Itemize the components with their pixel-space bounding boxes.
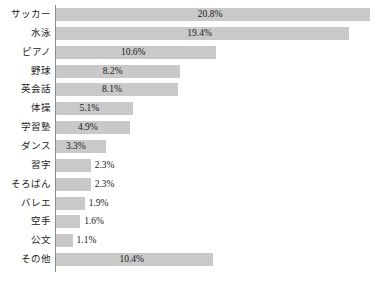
bar-row: ピアノ10.6% — [0, 46, 380, 59]
category-label: ダンス — [0, 140, 51, 153]
value-label: 8.1% — [102, 83, 122, 96]
category-label: 空手 — [0, 215, 51, 228]
value-label: 2.3% — [95, 178, 115, 191]
value-label: 5.1% — [79, 102, 99, 115]
bar — [56, 197, 85, 210]
category-label: 英会話 — [0, 83, 51, 96]
bar-row: 空手1.6% — [0, 215, 380, 228]
bar-row: サッカー20.8% — [0, 8, 380, 21]
value-label: 1.1% — [77, 234, 97, 247]
category-label: サッカー — [0, 8, 51, 21]
bar-row: そろばん2.3% — [0, 178, 380, 191]
value-label: 10.6% — [121, 46, 146, 59]
category-label: 公文 — [0, 234, 51, 247]
value-label: 4.9% — [78, 121, 98, 134]
bar-row: 学習塾4.9% — [0, 121, 380, 134]
category-label: ピアノ — [0, 46, 51, 59]
bar-row: 水泳19.4% — [0, 27, 380, 40]
horizontal-bar-chart: サッカー20.8%水泳19.4%ピアノ10.6%野球8.2%英会話8.1%体操5… — [0, 0, 380, 285]
bar-row: 公文1.1% — [0, 234, 380, 247]
bar-row: 習字2.3% — [0, 159, 380, 172]
category-label: そろばん — [0, 178, 51, 191]
bar-row: 体操5.1% — [0, 102, 380, 115]
category-label: 水泳 — [0, 27, 51, 40]
category-label: 習字 — [0, 159, 51, 172]
value-label: 10.4% — [119, 253, 144, 266]
category-label: その他 — [0, 253, 51, 266]
bar-row: 英会話8.1% — [0, 83, 380, 96]
bar — [56, 215, 80, 228]
value-label: 1.9% — [89, 197, 109, 210]
category-label: 体操 — [0, 102, 51, 115]
value-label: 20.8% — [198, 8, 223, 21]
category-label: バレエ — [0, 197, 51, 210]
bar — [56, 178, 91, 191]
category-label: 学習塾 — [0, 121, 51, 134]
bar-row: バレエ1.9% — [0, 197, 380, 210]
value-label: 19.4% — [187, 27, 212, 40]
category-label: 野球 — [0, 65, 51, 78]
bar-row: 野球8.2% — [0, 65, 380, 78]
value-label: 8.2% — [103, 65, 123, 78]
plot-area: サッカー20.8%水泳19.4%ピアノ10.6%野球8.2%英会話8.1%体操5… — [0, 0, 380, 285]
value-label: 3.3% — [66, 140, 86, 153]
value-label: 2.3% — [95, 159, 115, 172]
value-label: 1.6% — [84, 215, 104, 228]
bar — [56, 159, 91, 172]
bar-row: ダンス3.3% — [0, 140, 380, 153]
bar-row: その他10.4% — [0, 253, 380, 266]
bar — [56, 234, 73, 247]
